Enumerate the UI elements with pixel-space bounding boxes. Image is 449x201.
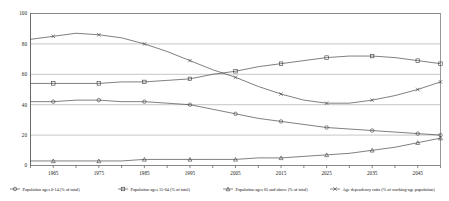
legend-item-label: Population ages 15-64 (% of total): [131, 187, 191, 192]
legend-item-1[interactable]: Population ages 0-14 (% of total): [10, 187, 80, 192]
x-axis-tick-label: 2035: [367, 170, 378, 176]
chart-legend: Population ages 0-14 (% of total)Populat…: [10, 187, 435, 192]
x-axis-tick-label: 1965: [48, 170, 59, 176]
x-axis-tick-label: 1975: [94, 170, 105, 176]
series-1: [31, 98, 443, 136]
y-axis-tick-label: 60: [22, 71, 28, 77]
x-axis-tick-label: 1995: [185, 170, 196, 176]
legend-item-3[interactable]: Population ages 65 and above (% of total…: [223, 187, 308, 192]
y-axis-tick-label: 80: [22, 41, 28, 47]
x-axis-tick-label: 2045: [413, 170, 424, 176]
legend-item-label: Age dependency ratio (% of working-age p…: [343, 187, 436, 192]
chart-container: 0204060801001965197519851995200520152025…: [0, 0, 449, 201]
x-axis-tick-label: 2005: [230, 170, 241, 176]
x-axis-tick-label: 2025: [321, 170, 332, 176]
plot-frame: [31, 14, 441, 166]
x-axis-tick-label: 2015: [276, 170, 287, 176]
legend-item-2[interactable]: Population ages 15-64 (% of total): [118, 187, 190, 192]
series-3: [31, 136, 443, 163]
series-2: [31, 54, 443, 85]
series-line: [31, 100, 441, 135]
legend-item-label: Population ages 65 and above (% of total…: [236, 187, 309, 192]
population-age-structure-line-chart: 0204060801001965197519851995200520152025…: [0, 0, 449, 201]
y-axis-tick-label: 40: [22, 102, 28, 108]
y-axis-tick-label: 20: [22, 132, 28, 138]
legend-item-label: Population ages 0-14 (% of total): [23, 187, 81, 192]
y-axis-tick-label: 0: [24, 162, 27, 168]
legend-item-4[interactable]: Age dependency ratio (% of working-age p…: [330, 187, 435, 192]
y-axis-tick-label: 100: [19, 10, 27, 16]
x-axis-tick-label: 1985: [139, 170, 150, 176]
